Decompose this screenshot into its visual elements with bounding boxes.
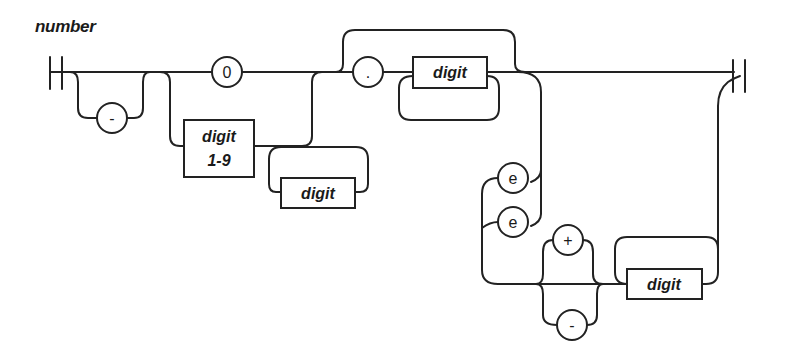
svg-text:1-9: 1-9 bbox=[207, 152, 230, 169]
decimal-point-node: . bbox=[353, 57, 383, 87]
svg-text:-: - bbox=[569, 317, 574, 334]
exponent-minus-node: - bbox=[557, 310, 587, 340]
svg-text:e: e bbox=[509, 170, 518, 187]
diagram-title: number bbox=[35, 17, 96, 37]
exponent-digit-loop-track bbox=[615, 76, 740, 284]
railroad-svg: - 0 digit 1-9 digit . digit bbox=[0, 0, 786, 353]
exponent-e-join bbox=[482, 222, 498, 228]
svg-text:-: - bbox=[109, 110, 114, 127]
zero-node: 0 bbox=[212, 57, 242, 87]
exponent-plus-node: + bbox=[553, 225, 583, 255]
integer-digit-node: digit bbox=[281, 178, 355, 208]
exponent-e-upper-node: e bbox=[498, 163, 528, 193]
svg-text:digit: digit bbox=[433, 64, 467, 81]
svg-text:0: 0 bbox=[223, 64, 232, 81]
svg-text:digit: digit bbox=[647, 276, 681, 293]
svg-text:.: . bbox=[366, 64, 370, 81]
number-syntax-diagram: number - 0 digit 1-9 dig bbox=[0, 0, 786, 353]
exponent-digit-node: digit bbox=[627, 269, 702, 299]
svg-text:+: + bbox=[563, 232, 572, 249]
minus-sign-node: - bbox=[97, 103, 127, 133]
svg-text:digit: digit bbox=[202, 128, 236, 145]
digit-1-9-node: digit 1-9 bbox=[184, 120, 254, 177]
svg-text:e: e bbox=[509, 214, 518, 231]
fraction-digit-node: digit bbox=[413, 57, 487, 88]
exponent-e-lower-node: e bbox=[498, 207, 528, 237]
svg-text:digit: digit bbox=[301, 185, 335, 202]
